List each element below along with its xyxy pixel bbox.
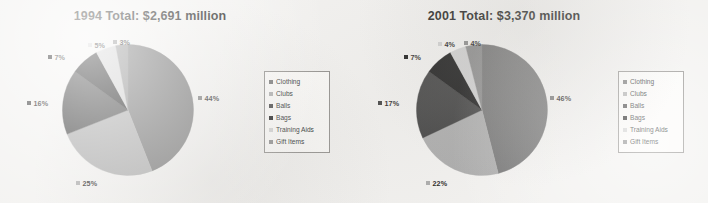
legend-item-label: Training Aids (276, 125, 314, 135)
legend-2001: ClothingClubsBallsBagsTraining AidsGift … (618, 71, 684, 153)
legend-item-clothing[interactable]: Clothing (623, 76, 680, 88)
pct-label-swatch-icon (76, 181, 80, 185)
legend-item-bags[interactable]: Bags (269, 112, 326, 124)
pie-slices-1994 (63, 45, 194, 176)
legend-item-label: Training Aids (630, 125, 668, 135)
legend-swatch-icon (269, 140, 273, 144)
pct-label-swatch-icon (464, 41, 468, 45)
pct-label-text: 3% (120, 38, 131, 47)
pie-2001 (416, 44, 548, 176)
pct-label-text: 22% (433, 179, 448, 188)
pct-label-text: 17% (385, 99, 400, 108)
legend-item-balls[interactable]: Balls (623, 100, 680, 112)
legend-item-label: Gift Items (630, 137, 658, 147)
pct-label-swatch-icon (404, 55, 408, 59)
legend-item-balls[interactable]: Balls (269, 100, 326, 112)
pie-pct-label: 4% (438, 41, 455, 49)
pie-pct-label: 46% (550, 95, 571, 103)
chart-panel-1994: 1994 Total: $2,691 million 44%25%16%7%5%… (0, 0, 354, 203)
pct-label-text: 7% (411, 53, 422, 62)
pie-pct-label: 4% (464, 40, 481, 48)
legend-swatch-icon (269, 92, 273, 96)
pie-pct-label: 5% (88, 42, 105, 50)
pct-label-swatch-icon (88, 43, 92, 47)
legend-item-clubs[interactable]: Clubs (269, 88, 326, 100)
pie-pct-label: 3% (113, 39, 130, 47)
pct-label-text: 16% (34, 99, 49, 108)
pie-pct-label: 22% (426, 180, 447, 188)
legend-item-label: Balls (276, 101, 290, 111)
legend-item-training-aids[interactable]: Training Aids (623, 124, 680, 136)
legend-swatch-icon (269, 116, 273, 120)
legend-item-label: Clothing (630, 77, 654, 87)
legend-swatch-icon (623, 140, 627, 144)
legend-item-training-aids[interactable]: Training Aids (269, 124, 326, 136)
pct-label-text: 44% (205, 94, 220, 103)
legend-1994: ClothingClubsBallsBagsTraining AidsGift … (264, 71, 330, 153)
pct-label-swatch-icon (198, 96, 202, 100)
legend-item-label: Clothing (276, 77, 300, 87)
legend-item-label: Gift Items (276, 137, 304, 147)
pct-label-swatch-icon (113, 40, 117, 44)
pie-pct-label: 7% (404, 54, 421, 62)
pie-svg-2001 (416, 44, 548, 176)
legend-item-clothing[interactable]: Clothing (269, 76, 326, 88)
pie-pct-label: 7% (48, 54, 65, 62)
legend-swatch-icon (623, 92, 627, 96)
pct-label-text: 7% (55, 53, 66, 62)
pct-label-swatch-icon (378, 101, 382, 105)
pct-label-text: 4% (445, 40, 456, 49)
pie-1994 (62, 44, 194, 176)
pct-label-text: 25% (83, 179, 98, 188)
pie-svg-1994 (62, 44, 194, 176)
pie-charts-row: 1994 Total: $2,691 million 44%25%16%7%5%… (0, 0, 708, 203)
pct-label-swatch-icon (426, 181, 430, 185)
pct-label-text: 46% (557, 94, 572, 103)
legend-swatch-icon (623, 104, 627, 108)
legend-swatch-icon (269, 128, 273, 132)
legend-item-label: Bags (276, 113, 291, 123)
pct-label-text: 4% (471, 39, 482, 48)
pct-label-swatch-icon (550, 96, 554, 100)
legend-item-label: Balls (630, 101, 644, 111)
legend-item-gift-items[interactable]: Gift Items (269, 136, 326, 148)
legend-item-clubs[interactable]: Clubs (623, 88, 680, 100)
legend-item-label: Clubs (630, 89, 647, 99)
legend-item-bags[interactable]: Bags (623, 112, 680, 124)
pie-pct-label: 44% (198, 95, 219, 103)
legend-swatch-icon (623, 80, 627, 84)
legend-item-gift-items[interactable]: Gift Items (623, 136, 680, 148)
pie-pct-label: 25% (76, 180, 97, 188)
legend-swatch-icon (269, 80, 273, 84)
pct-label-swatch-icon (438, 42, 442, 46)
chart-panel-2001: 2001 Total: $3,370 million 46%22%17%7%4%… (354, 0, 708, 203)
legend-item-label: Bags (630, 113, 645, 123)
chart-title-2001: 2001 Total: $3,370 million (354, 9, 654, 23)
legend-swatch-icon (269, 104, 273, 108)
legend-item-label: Clubs (276, 89, 293, 99)
legend-swatch-icon (623, 128, 627, 132)
pie-slices-2001 (416, 45, 547, 176)
pie-pct-label: 17% (378, 100, 399, 108)
pct-label-swatch-icon (27, 101, 31, 105)
pct-label-text: 5% (95, 41, 106, 50)
chart-title-1994: 1994 Total: $2,691 million (0, 9, 300, 23)
pct-label-swatch-icon (48, 55, 52, 59)
pie-pct-label: 16% (27, 100, 48, 108)
legend-swatch-icon (623, 116, 627, 120)
